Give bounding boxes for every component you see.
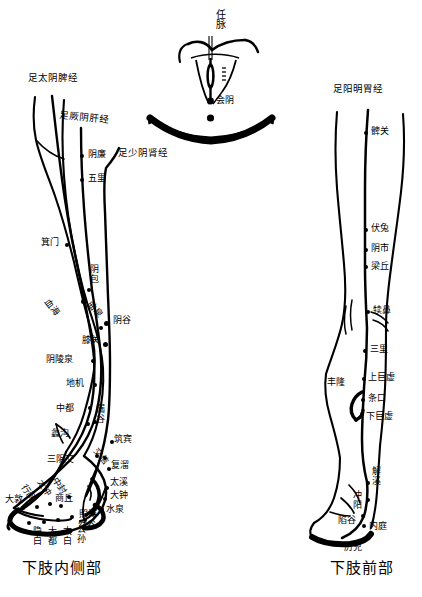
right-leg-outline bbox=[310, 112, 404, 544]
point-label-dazhong: 大钟 bbox=[110, 491, 128, 501]
point-label-gongsun: 公孙 bbox=[77, 524, 87, 544]
meridian-name-spleen: 足太阴脾经 bbox=[28, 73, 78, 83]
point-label-diji: 地机 bbox=[66, 379, 84, 389]
acupoint-dot bbox=[105, 486, 109, 490]
point-label-shuiquan: 水泉 bbox=[106, 505, 124, 515]
acupoint-dot bbox=[366, 310, 370, 314]
acupoint-dot bbox=[86, 422, 90, 426]
acupoint-dot bbox=[361, 514, 365, 518]
point-label-yinbai: 隐白 bbox=[33, 526, 43, 546]
meridian-name-stomach: 足阳明胃经 bbox=[333, 84, 383, 94]
acupoint-dot bbox=[80, 178, 84, 182]
acupoint-dot bbox=[103, 456, 107, 460]
acupoint-dot bbox=[56, 518, 60, 522]
point-label-chongyang: 冲阳 bbox=[353, 490, 363, 510]
point-label-jimen: 箕门 bbox=[41, 238, 59, 248]
point-label-biguan: 髀关 bbox=[371, 127, 389, 137]
acupoint-dot bbox=[21, 506, 25, 510]
point-label-xiguan: 膝关 bbox=[82, 336, 100, 346]
acupoint-dot bbox=[88, 406, 92, 410]
acupoint-dot bbox=[364, 265, 368, 269]
acupoint-dot bbox=[361, 398, 365, 402]
meridian-name-kidney: 足少阴肾经 bbox=[118, 148, 168, 158]
acupoint-dot bbox=[364, 248, 368, 252]
point-label-jiexi: 解溪 bbox=[372, 466, 382, 486]
point-label-taixi: 太溪 bbox=[110, 478, 128, 488]
acupoint-dot bbox=[65, 243, 69, 247]
acupoint-dot bbox=[48, 502, 52, 506]
point-label-xiangu: 陷谷 bbox=[338, 516, 356, 526]
point-label-zhubin: 筑宾 bbox=[114, 435, 132, 445]
point-label-tiaokou: 条口 bbox=[368, 394, 386, 404]
point-label-yinlian: 阴廉 bbox=[88, 150, 106, 160]
acupoint-dot bbox=[81, 299, 86, 304]
acupoint-dot bbox=[362, 377, 366, 381]
acupoint-dot bbox=[364, 228, 368, 232]
left-leg-outline bbox=[8, 97, 106, 534]
caption-left-panel: 下肢内侧部 bbox=[22, 556, 102, 577]
point-label-yingu: 阴谷 bbox=[113, 316, 131, 326]
acupuncture-diagram: 任脉 会阴 足太阴脾经 足厥阴肝经 足少阴肾经 足阳明胃经 阴廉 五里 箕门 阴… bbox=[0, 0, 422, 597]
point-label-zusanli: 三里 bbox=[370, 345, 388, 355]
acupoint-dot bbox=[59, 504, 63, 508]
point-label-fenglong: 丰隆 bbox=[327, 378, 345, 388]
label-huiyin: 会阴 bbox=[216, 96, 234, 106]
acupoint-dot bbox=[363, 349, 367, 353]
acupoint-dot bbox=[95, 454, 99, 458]
acupoint-dot bbox=[67, 495, 71, 499]
acupoint-dot bbox=[35, 505, 39, 509]
acupoint-dot bbox=[103, 342, 108, 347]
acupoint-dot bbox=[93, 383, 97, 387]
acupoint-dot bbox=[42, 520, 46, 524]
acupoint-dot bbox=[27, 521, 31, 525]
label-renmai: 任脉 bbox=[216, 10, 227, 30]
point-label-dadun: 大敦 bbox=[5, 495, 23, 505]
acupoint-dot bbox=[110, 440, 114, 444]
point-label-lougu: 漏谷 bbox=[96, 404, 106, 424]
acupoint-dot bbox=[83, 518, 87, 522]
point-label-taibai: 太白 bbox=[63, 526, 73, 546]
acupoint-dot bbox=[107, 467, 111, 471]
point-label-fuliu: 复溜 bbox=[111, 461, 129, 471]
acupoint-dot bbox=[100, 507, 104, 511]
point-label-ligou: 蠡沟 bbox=[51, 429, 69, 439]
acupoint-dot bbox=[80, 154, 84, 158]
point-label-liangqiu: 梁丘 bbox=[371, 262, 389, 272]
acupoint-dot bbox=[87, 288, 91, 292]
point-label-yinbao: 阴包 bbox=[90, 264, 100, 284]
point-label-yinshi: 阴市 bbox=[371, 244, 389, 254]
acupoint-dot bbox=[70, 515, 74, 519]
point-label-lidui: 厉兑 bbox=[344, 543, 362, 553]
acupoint-dot bbox=[364, 131, 368, 135]
acupoint-dot bbox=[366, 498, 370, 502]
acupoint-dot bbox=[104, 321, 109, 326]
acupoint-dot bbox=[366, 481, 370, 485]
point-label-sanyinjiao: 三阴交 bbox=[47, 455, 74, 465]
perineum-figure bbox=[150, 36, 273, 141]
acupoint-dot bbox=[91, 512, 95, 516]
acupoint-dot bbox=[99, 326, 103, 330]
point-label-dadu: 大都 bbox=[48, 526, 58, 546]
caption-right-panel: 下肢前部 bbox=[330, 556, 394, 577]
acupoint-dot bbox=[93, 420, 97, 424]
point-label-shangjuxu: 上巨虚 bbox=[368, 373, 395, 383]
point-label-dubi: 犊鼻 bbox=[373, 306, 391, 316]
point-label-neiting: 内庭 bbox=[369, 522, 387, 532]
acupoint-dot bbox=[360, 412, 364, 416]
acupoint-dot bbox=[362, 524, 366, 528]
channel-stomach-right bbox=[342, 110, 368, 538]
acupoint-dot bbox=[103, 497, 107, 501]
point-label-yinlingquan: 阴陵泉 bbox=[46, 355, 73, 365]
acupoint-dot bbox=[91, 359, 95, 363]
point-label-futu: 伏兔 bbox=[371, 224, 389, 234]
point-label-zhongdu: 中都 bbox=[56, 404, 74, 414]
point-label-xiajuxu: 下巨虚 bbox=[366, 412, 393, 422]
point-label-wuli: 五里 bbox=[88, 174, 106, 184]
